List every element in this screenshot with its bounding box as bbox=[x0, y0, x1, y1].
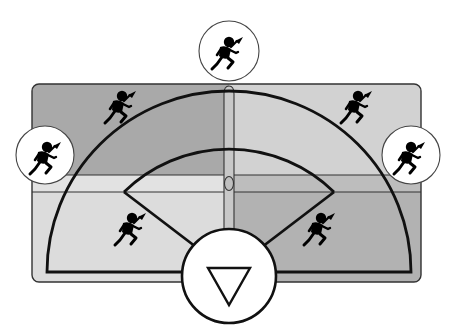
player-center-field bbox=[199, 21, 259, 81]
player-right-field bbox=[382, 126, 440, 184]
center-marker-ellipse bbox=[225, 177, 234, 191]
baseball-field-diagram: Baseball field positions diagram bbox=[0, 0, 454, 335]
home-plate bbox=[182, 229, 276, 323]
player-left-field bbox=[16, 126, 74, 184]
